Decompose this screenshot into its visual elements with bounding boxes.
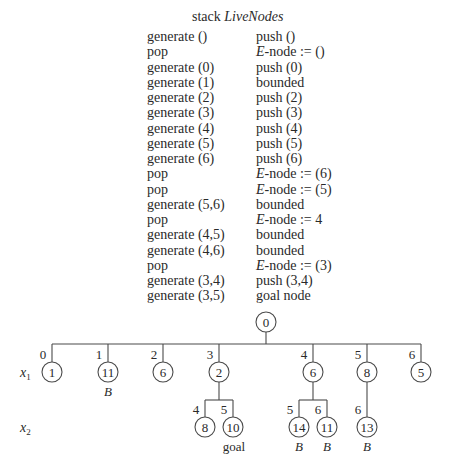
edge-label: 0 (40, 347, 47, 362)
edge-label: 4 (301, 347, 308, 362)
tree-node-value: 2 (216, 365, 223, 380)
tree-node-value: 6 (160, 365, 167, 380)
tree-node-value: 14 (293, 420, 307, 435)
tree-node-value: 13 (361, 420, 374, 435)
tree-node-value: 0 (263, 315, 270, 330)
edge-label: 4 (193, 402, 200, 417)
tree-node-value: 5 (418, 365, 425, 380)
node-annotation: B (323, 439, 331, 454)
edge-label: 5 (355, 347, 362, 362)
tree-node-value: 1 (49, 365, 56, 380)
node-annotation: B (295, 439, 303, 454)
node-annotation: B (363, 439, 371, 454)
node-annotation: goal (223, 439, 246, 454)
tree-node-value: 8 (364, 365, 371, 380)
level-label-subscript: 2 (26, 427, 31, 437)
level-label-subscript: 1 (26, 372, 31, 382)
node-annotation: B (104, 384, 112, 399)
state-space-tree: 001111B263246586548510goal514B611B613Bx1… (0, 0, 453, 474)
tree-node-value: 10 (227, 420, 240, 435)
tree-node-value: 8 (202, 420, 209, 435)
tree-node-value: 11 (321, 420, 334, 435)
edge-label: 6 (355, 402, 362, 417)
tree-node-value: 11 (102, 365, 115, 380)
edge-label: 1 (96, 347, 103, 362)
level-label-x2: x2 (19, 420, 31, 437)
tree-node-value: 6 (310, 365, 317, 380)
level-label-x1: x1 (19, 365, 31, 382)
edge-label: 6 (409, 347, 416, 362)
edge-label: 2 (151, 347, 158, 362)
edge-label: 3 (207, 347, 214, 362)
edge-label: 5 (221, 402, 228, 417)
edge-label: 6 (315, 402, 322, 417)
edge-label: 5 (287, 402, 294, 417)
